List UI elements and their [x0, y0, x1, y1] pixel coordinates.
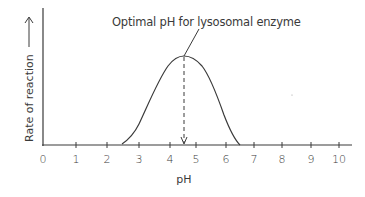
tick-label-4: 4 [167, 153, 174, 166]
tick-label-2: 2 [104, 153, 111, 166]
tick-label-6: 6 [223, 153, 230, 166]
tick-label-9: 9 [308, 153, 315, 166]
tick-label-10: 10 [332, 153, 346, 166]
optimal-ph-arrow-icon [181, 137, 187, 144]
paper-speck [291, 94, 292, 95]
tick-label-1: 1 [73, 153, 80, 166]
annotation-leader-line [184, 29, 199, 56]
tick-label-5: 5 [193, 153, 200, 166]
y-axis-label-group: Rate of reaction [23, 17, 36, 142]
x-axis-label: pH [176, 173, 191, 186]
tick-label-0: 0 [40, 153, 47, 166]
x-tick-labels: 0 1 2 3 4 5 6 7 8 9 10 [40, 153, 347, 166]
optimal-ph-annotation: Optimal pH for lysosomal enzyme [112, 15, 301, 29]
tick-label-3: 3 [136, 153, 143, 166]
tick-label-7: 7 [251, 153, 258, 166]
tick-label-8: 8 [279, 153, 286, 166]
rate-curve [122, 56, 240, 145]
ph-rate-chart: 0 1 2 3 4 5 6 7 8 9 10 pH Rate of reacti… [0, 0, 365, 197]
y-axis-label: Rate of reaction [23, 54, 36, 142]
